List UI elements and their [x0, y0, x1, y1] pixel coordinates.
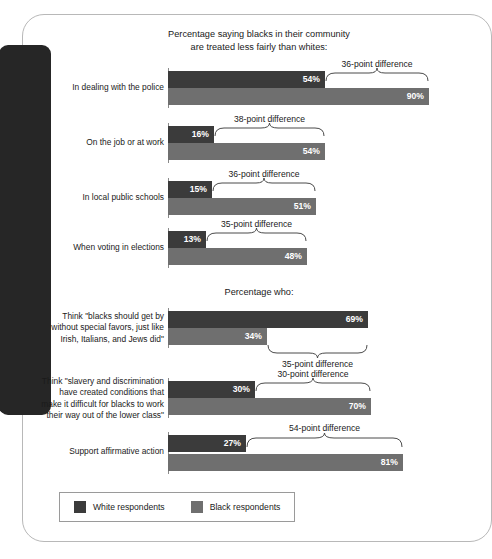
category-label-schools: In local public schools	[20, 192, 164, 203]
legend-entry-black: Black respondents	[191, 501, 281, 513]
category-label-special-favors: Think "blacks should get by without spec…	[20, 311, 164, 345]
bar-value-black-voting: 48%	[285, 248, 302, 265]
bar-black-voting: 48%	[168, 248, 307, 265]
legend-entry-white: White respondents	[74, 501, 165, 513]
category-label-affirmative-action: Support affirmative action	[20, 446, 164, 457]
bar-white-voting: 13%	[168, 231, 206, 248]
bar-value-white-voting: 13%	[184, 231, 201, 248]
bar-value-white-police: 54%	[303, 71, 320, 88]
difference-brace-voting	[206, 231, 307, 241]
bar-value-white-special-favors: 69%	[346, 311, 363, 328]
legend-label-white: White respondents	[93, 502, 165, 512]
bar-white-slavery: 30%	[168, 381, 255, 398]
difference-brace-affirmative-action	[246, 435, 403, 447]
bar-value-black-special-favors: 34%	[245, 328, 262, 345]
difference-label-slavery: 30-point difference	[255, 369, 371, 379]
difference-label-voting: 35-point difference	[206, 219, 307, 229]
category-label-job: On the job or at work	[20, 137, 164, 148]
difference-label-special-favors: 35-point difference	[267, 359, 368, 369]
section-title-attitudes: Percentage who:	[128, 286, 390, 299]
difference-label-affirmative-action: 54-point difference	[246, 423, 403, 433]
legend-label-black: Black respondents	[210, 502, 281, 512]
category-label-voting: When voting in elections	[20, 242, 164, 253]
difference-label-police: 36-point difference	[325, 59, 429, 69]
difference-brace-slavery	[255, 381, 371, 391]
bar-value-black-affirmative-action: 81%	[381, 454, 398, 471]
bar-value-black-job: 54%	[303, 143, 320, 160]
bar-white-affirmative-action: 27%	[168, 435, 246, 452]
legend-swatch-white-icon	[74, 501, 86, 513]
bar-value-white-schools: 15%	[190, 181, 207, 198]
bar-black-job: 54%	[168, 143, 325, 160]
bar-value-white-affirmative-action: 27%	[224, 435, 241, 452]
bar-black-special-favors: 34%	[168, 328, 267, 345]
bar-value-black-police: 90%	[407, 88, 424, 105]
bar-black-schools: 51%	[168, 198, 316, 215]
legend-swatch-black-icon	[191, 501, 203, 513]
difference-brace-special-favors	[267, 345, 368, 355]
category-label-slavery: Think "slavery and discrimination have c…	[8, 376, 164, 422]
chart-legend: White respondents Black respondents	[59, 492, 295, 522]
category-label-police: In dealing with the police	[20, 82, 164, 93]
bar-value-black-schools: 51%	[294, 198, 311, 215]
bar-white-special-favors: 69%	[168, 311, 368, 328]
bar-white-police: 54%	[168, 71, 325, 88]
bar-black-slavery: 70%	[168, 398, 371, 415]
difference-label-schools: 36-point difference	[212, 169, 316, 179]
bar-value-white-slavery: 30%	[233, 381, 250, 398]
bar-value-white-job: 16%	[192, 126, 209, 143]
difference-brace-police	[325, 71, 429, 81]
bar-black-affirmative-action: 81%	[168, 454, 403, 471]
difference-brace-job	[214, 126, 325, 136]
bar-white-schools: 15%	[168, 181, 212, 198]
bar-black-police: 90%	[168, 88, 429, 105]
difference-brace-schools	[212, 181, 316, 191]
section-title-fairness: Percentage saying blacks in their commun…	[128, 28, 390, 53]
bar-white-job: 16%	[168, 126, 214, 143]
bar-value-black-slavery: 70%	[349, 398, 366, 415]
difference-label-job: 38-point difference	[214, 114, 325, 124]
